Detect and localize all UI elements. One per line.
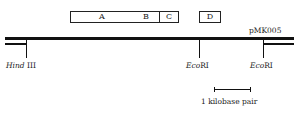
gene-label-d: D	[207, 12, 213, 21]
hindiii-site-tick	[26, 39, 27, 58]
dna-right-stub-line	[263, 43, 294, 45]
gene-label-a: A	[99, 12, 105, 21]
ecori-site-1-tick	[199, 39, 200, 58]
ecori-site-1-label: EcoRI	[186, 61, 209, 70]
scale-bar-line	[214, 89, 251, 90]
scale-bar-label: 1 kilobase pair	[201, 97, 257, 106]
gene-box-a: A	[70, 11, 134, 23]
scale-bar-left-cap	[214, 87, 215, 92]
gene-box-c: C	[159, 11, 179, 23]
plasmid-name: pMK005	[249, 26, 281, 35]
gene-label-b: B	[143, 12, 149, 21]
gene-label-c: C	[166, 12, 172, 21]
dna-left-stub-line	[5, 43, 27, 45]
ecori-site-2-tick	[263, 39, 264, 58]
dna-main-line	[5, 37, 294, 40]
gene-box-d: D	[199, 11, 221, 23]
scale-bar-right-cap	[250, 87, 251, 92]
gene-box-b: B	[133, 11, 160, 23]
hindiii-site-label: Hind III	[6, 61, 36, 70]
ecori-site-2-label: EcoRI	[250, 61, 273, 70]
